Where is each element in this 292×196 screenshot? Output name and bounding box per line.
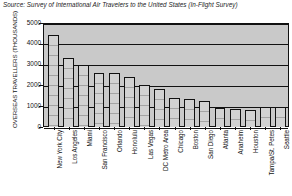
bar-slot <box>122 23 137 127</box>
y-axis-tick-label: 0 <box>9 124 41 130</box>
y-axis-tick-label: 5000 <box>9 20 41 26</box>
x-axis-tick-mark <box>205 127 206 130</box>
bar <box>245 110 256 127</box>
bar <box>48 35 59 127</box>
bar-slot <box>182 23 197 127</box>
source-note: Source: Survey of International Air Trav… <box>3 1 292 8</box>
y-axis-tick-mark <box>39 85 43 86</box>
x-axis-label-slot: Seattle <box>273 127 288 196</box>
x-axis-tick-mark <box>99 127 100 130</box>
bar <box>184 99 195 127</box>
x-axis-tick-labels: New York CityLos AngelesMiamiSan Francis… <box>43 127 289 196</box>
x-axis-tick-mark <box>114 127 115 130</box>
x-axis-tick-mark <box>54 127 55 130</box>
y-axis-tick-label: 2000 <box>9 82 41 88</box>
bar <box>78 65 89 127</box>
y-axis-tick-mark <box>39 127 43 128</box>
bar <box>139 85 150 127</box>
bar-slot <box>273 23 288 127</box>
x-axis-label-slot: Tampa/St. Petes <box>258 127 273 196</box>
x-axis-label-slot: Anaheim <box>228 127 243 196</box>
x-axis-label-slot: Orlando <box>107 127 122 196</box>
x-axis-label-slot: New York City <box>46 127 61 196</box>
x-axis-label-slot: DC Metro Area <box>152 127 167 196</box>
bar <box>169 98 180 127</box>
x-axis-label-slot: Miami <box>76 127 91 196</box>
bar <box>215 108 226 127</box>
bar-slot <box>167 23 182 127</box>
y-axis-title: OVERSEAS TRAVELLERS (THOUSANDS) <box>11 10 18 130</box>
x-axis-label-slot: Houston <box>243 127 258 196</box>
x-axis-label-slot: Honolulu <box>122 127 137 196</box>
x-axis-tick-mark <box>280 127 281 130</box>
x-axis-tick-mark <box>235 127 236 130</box>
x-axis-tick-mark <box>175 127 176 130</box>
x-axis-label-slot: San Francisco <box>91 127 106 196</box>
bar-slot <box>228 23 243 127</box>
bar-slot <box>76 23 91 127</box>
bar-series <box>43 23 289 127</box>
y-axis-tick-label: 3000 <box>9 61 41 67</box>
bar <box>109 73 120 127</box>
x-axis-tick-mark <box>144 127 145 130</box>
bar <box>124 77 135 127</box>
bar-slot <box>243 23 258 127</box>
x-axis-tick-mark <box>190 127 191 130</box>
x-axis-tick-mark <box>220 127 221 130</box>
bar-slot <box>197 23 212 127</box>
x-axis-label-slot: Atlanta <box>212 127 227 196</box>
bar-slot <box>107 23 122 127</box>
bar <box>275 107 286 127</box>
x-axis-label-slot: San Diego <box>197 127 212 196</box>
bar-slot <box>91 23 106 127</box>
bar-slot <box>61 23 76 127</box>
y-axis-tick-mark <box>39 106 43 107</box>
bar <box>199 101 210 127</box>
x-axis-tick-mark <box>69 127 70 130</box>
bar-slot <box>152 23 167 127</box>
x-axis-label-slot: Boston <box>182 127 197 196</box>
bar-slot <box>212 23 227 127</box>
x-axis-tick-mark <box>159 127 160 130</box>
x-axis-tick-label: Seattle <box>283 130 290 149</box>
bar-slot <box>46 23 61 127</box>
x-axis-tick-mark <box>84 127 85 130</box>
bar-slot <box>137 23 152 127</box>
y-axis-tick-mark <box>39 23 43 24</box>
bar <box>94 73 105 127</box>
x-axis-tick-mark <box>265 127 266 130</box>
bar <box>260 107 271 127</box>
bar <box>230 109 241 127</box>
bar-slot <box>258 23 273 127</box>
x-axis-label-slot: Chicago <box>167 127 182 196</box>
y-axis-tick-mark <box>39 44 43 45</box>
y-axis-tick-label: 1000 <box>9 103 41 109</box>
bar <box>154 89 165 127</box>
x-axis-label-slot: Las Vegas <box>137 127 152 196</box>
x-axis-label-slot: Los Angeles <box>61 127 76 196</box>
y-axis-tick-label: 4000 <box>9 40 41 46</box>
chart-page: Source: Survey of International Air Trav… <box>0 0 292 196</box>
y-axis-tick-mark <box>39 65 43 66</box>
bar <box>63 58 74 127</box>
